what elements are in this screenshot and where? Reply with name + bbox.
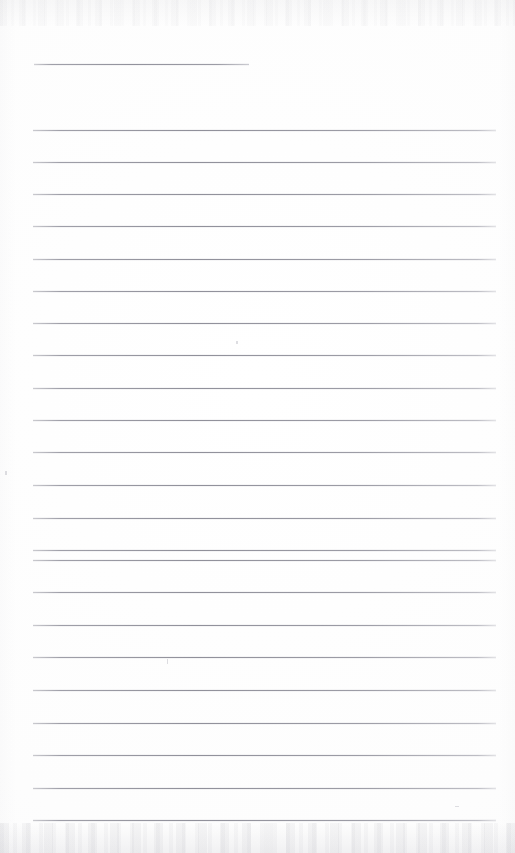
ruled-line [33, 130, 496, 131]
paper-background [0, 0, 515, 853]
ruled-line [33, 291, 496, 292]
ruled-line [33, 625, 496, 626]
ruled-line [33, 162, 496, 163]
ruled-line [33, 518, 496, 519]
ruled-line [33, 194, 496, 195]
ruled-line [33, 788, 496, 789]
ruled-line [33, 755, 496, 756]
scanned-page [0, 0, 515, 853]
ruled-line [33, 355, 496, 356]
ruled-line [33, 723, 496, 724]
ruled-line [33, 592, 496, 593]
ruled-line [33, 560, 496, 561]
ruled-line [33, 226, 496, 227]
ruled-line [33, 690, 496, 691]
ruled-line [33, 388, 496, 389]
ruled-line [33, 485, 496, 486]
ruled-line [33, 323, 496, 324]
ruled-line [33, 657, 496, 658]
ruled-line [33, 820, 496, 821]
ruled-line [33, 420, 496, 421]
ruled-line [33, 259, 496, 260]
header-rule [34, 64, 249, 65]
ruled-line [33, 550, 496, 551]
ruled-line [33, 452, 496, 453]
